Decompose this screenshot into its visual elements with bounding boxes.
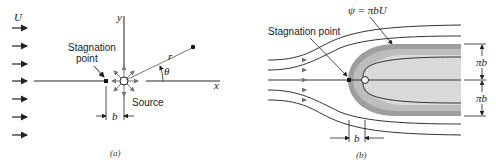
pi-b-lower-label: πb xyxy=(476,92,488,104)
stagnation-point-b-icon xyxy=(347,78,351,82)
free-stream-label: U xyxy=(14,11,23,23)
source-icon xyxy=(120,77,128,85)
x-axis-label: x xyxy=(213,79,219,91)
stagnation-pointer-b xyxy=(310,38,347,76)
panel-a: U x y Source Stagnati xyxy=(12,11,220,158)
free-stream-arrows xyxy=(12,28,27,135)
source-b-icon xyxy=(362,77,369,84)
stagnation-point-icon xyxy=(104,79,108,83)
r-vector xyxy=(126,48,192,80)
caption-b: (b) xyxy=(356,150,367,160)
field-point-icon xyxy=(191,45,195,49)
b-label: b xyxy=(112,110,118,122)
theta-label: θ xyxy=(164,65,170,77)
psi-label: ψ = πbU xyxy=(348,4,388,16)
pi-b-upper-label: πb xyxy=(476,56,488,68)
stagnation-label-b: Stagnation point xyxy=(268,26,341,37)
streamline-arrows xyxy=(302,60,306,100)
b-label-b: b xyxy=(354,132,360,144)
theta-arc xyxy=(160,66,163,81)
panel-b: Stagnation point ψ = πbU πb πb b (b) xyxy=(268,4,488,160)
figure-canvas: U x y Source Stagnati xyxy=(0,0,496,166)
stagnation-label-line2: point xyxy=(76,53,98,64)
caption-a: (a) xyxy=(110,148,121,158)
stagnation-pointer xyxy=(94,66,104,77)
stagnation-label-line1: Stagnation xyxy=(68,42,116,53)
source-label: Source xyxy=(132,97,164,108)
r-label: r xyxy=(168,50,173,62)
y-axis-label: y xyxy=(116,11,122,23)
